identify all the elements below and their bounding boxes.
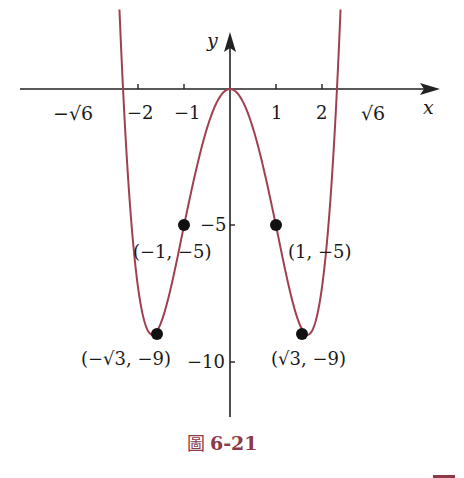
x-axis-label: x [423, 98, 434, 117]
y-axis-label: y [207, 31, 218, 50]
function-graph [0, 0, 464, 478]
point-sqrt3-neg9 [296, 328, 308, 340]
caption-number: 6-21 [210, 434, 258, 453]
point-label-negsqrt3-neg9: (−√3, −9) [81, 350, 171, 368]
y-tick-label-neg10: −10 [187, 353, 225, 371]
point-pos1-neg5 [270, 219, 282, 231]
point-label-pos1-neg5: (1, −5) [288, 243, 351, 261]
x-tick-label-2: 2 [316, 104, 327, 122]
point-label-neg1-neg5: (−1, −5) [133, 243, 212, 261]
point-negsqrt3-neg9 [151, 328, 163, 340]
caption-glyph: 圖 [187, 435, 205, 453]
x-tick-label-sqrt6: √6 [361, 104, 385, 123]
point-neg1-neg5 [178, 219, 190, 231]
figure-caption: 圖 6-21 [187, 434, 258, 453]
x-tick-label-neg-sqrt6: −√6 [53, 104, 93, 123]
y-tick-label-neg5: −5 [200, 216, 227, 234]
x-tick-label-neg1: −1 [174, 104, 201, 122]
x-tick-label-1: 1 [271, 104, 282, 122]
x-tick-label-neg2: −2 [127, 104, 154, 122]
point-label-sqrt3-neg9: (√3, −9) [271, 350, 346, 368]
